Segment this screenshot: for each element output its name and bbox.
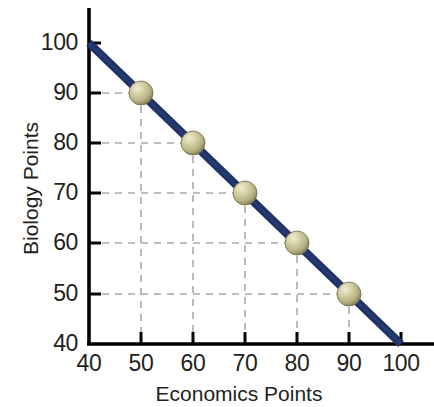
chart-figure: 100 90 80 70 60 50 40 40 50 60 70 80 90 … (0, 0, 434, 407)
x-tick-label-50: 50 (111, 352, 171, 375)
y-axis-title: Biology Points (20, 99, 41, 279)
x-tick-label-100: 100 (371, 352, 431, 375)
y-tick-label-100: 100 (10, 31, 78, 54)
x-axis-title: Economics Points (89, 383, 389, 404)
gridlines-horizontal (89, 93, 349, 294)
x-tick-label-60: 60 (163, 352, 223, 375)
x-tick-label-40: 40 (59, 352, 119, 375)
y-tick-label-50: 50 (10, 282, 78, 305)
x-tick-label-80: 80 (267, 352, 327, 375)
y-axis-ticks (89, 43, 101, 294)
x-tick-label-70: 70 (215, 352, 275, 375)
gridlines-vertical (141, 93, 349, 344)
x-tick-label-90: 90 (319, 352, 379, 375)
